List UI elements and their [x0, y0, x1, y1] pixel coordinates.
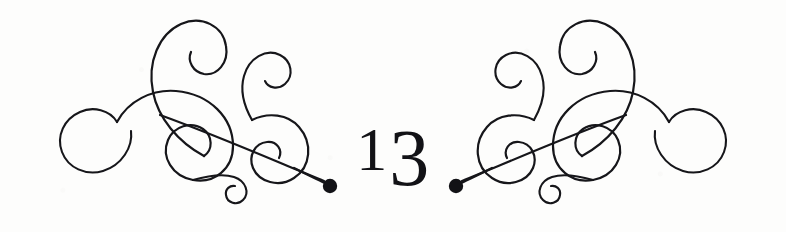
chapter-number-digit-one: 1: [356, 115, 388, 183]
chapter-ornament-page: 13: [0, 0, 786, 232]
chapter-number: 13: [0, 110, 786, 198]
chapter-number-digit-three: 3: [389, 114, 430, 202]
